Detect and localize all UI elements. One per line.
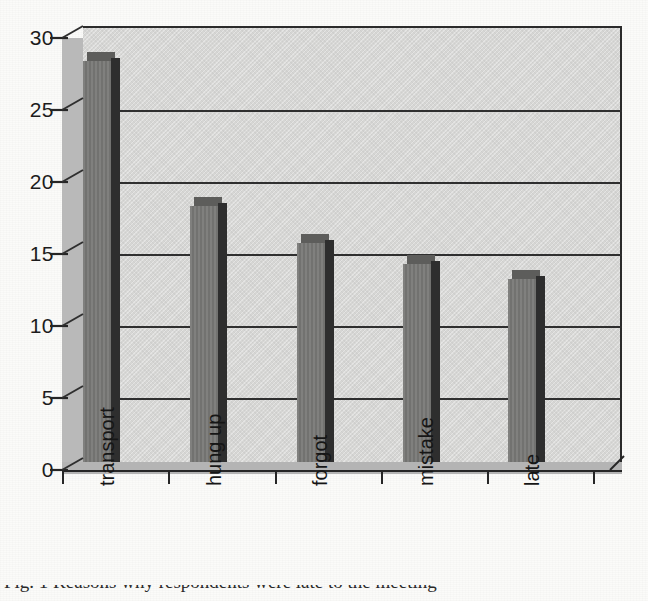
cut-off-caption: Fig. 1 Reasons why respondents were late… — [0, 585, 648, 601]
bar-transport[interactable] — [83, 52, 111, 462]
bar-face — [508, 279, 536, 462]
y-tick-label-0: 0 — [8, 458, 54, 482]
y-tick-label-30: 30 — [8, 26, 54, 50]
y-axis-labels: 30 25 20 15 10 5 0 — [8, 0, 54, 601]
x-tick-0 — [62, 472, 64, 484]
bar-side — [111, 58, 120, 462]
x-tick-2 — [275, 472, 277, 484]
y-tick-label-5: 5 — [8, 386, 54, 410]
y-tick-label-20: 20 — [8, 170, 54, 194]
bar-forgot[interactable] — [297, 234, 325, 462]
gridline-25 — [83, 110, 622, 112]
caption-text: Fig. 1 Reasons why respondents were late… — [4, 585, 437, 593]
bar-face — [83, 61, 111, 462]
plot-side-wall — [62, 38, 83, 474]
bar-side — [325, 240, 334, 462]
bar-chart: 30 25 20 15 10 5 0 — [0, 0, 648, 601]
x-label-late: late — [521, 454, 544, 486]
x-label-mistake: mistake — [415, 417, 438, 486]
x-label-forgot: forgot — [309, 435, 332, 486]
y-tick-label-10: 10 — [8, 314, 54, 338]
x-label-transport: transport — [96, 407, 119, 486]
bar-side — [536, 276, 545, 462]
y-tick-label-15: 15 — [8, 242, 54, 266]
plot-area — [62, 26, 622, 474]
x-label-hung-up: hung up — [203, 414, 226, 486]
y-tick-label-25: 25 — [8, 98, 54, 122]
x-tick-3 — [381, 472, 383, 484]
x-tick-1 — [168, 472, 170, 484]
bar-late[interactable] — [508, 270, 536, 462]
gridline-15 — [83, 254, 622, 256]
gridline-20 — [83, 182, 622, 184]
x-tick-4 — [487, 472, 489, 484]
x-tick-5 — [593, 472, 595, 484]
bar-face — [297, 243, 325, 462]
